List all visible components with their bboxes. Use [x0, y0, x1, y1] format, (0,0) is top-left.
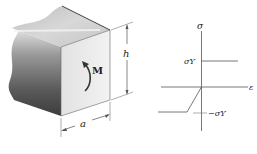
- moment-label: M: [92, 65, 103, 76]
- stress-strain-diagram: σ ε σY −σY: [158, 21, 253, 131]
- yield-positive-label: σY: [184, 57, 195, 66]
- height-dimension: h: [111, 22, 133, 100]
- yield-negative-label: −σY: [208, 109, 226, 118]
- height-label: h: [123, 48, 129, 59]
- beam-block: M: [9, 6, 110, 116]
- sigma-axis-label: σ: [197, 21, 204, 31]
- beam-top-highlight: [14, 30, 100, 31]
- width-label: a: [80, 118, 86, 129]
- figure-canvas: M h a σ ε σY −σY: [0, 0, 257, 154]
- elastic-line: [187, 87, 202, 112]
- epsilon-axis-label: ε: [249, 83, 253, 92]
